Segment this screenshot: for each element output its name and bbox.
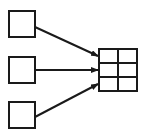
arrows <box>35 27 98 117</box>
source-boxes <box>9 11 35 128</box>
arrow-source-bottom <box>35 84 98 117</box>
source-middle-box <box>9 57 35 83</box>
diagram-canvas <box>0 0 147 138</box>
target-grid <box>99 49 137 91</box>
source-bottom-box <box>9 102 35 128</box>
arrow-source-top <box>35 27 98 56</box>
source-top-box <box>9 11 35 37</box>
